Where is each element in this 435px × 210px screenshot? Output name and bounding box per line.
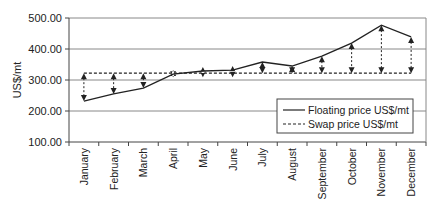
x-tick-label: July xyxy=(256,147,268,166)
gridlines xyxy=(69,18,426,111)
y-axis-ticks: 100.00200.00300.00400.00500.00 xyxy=(28,12,69,148)
x-tick-label: February xyxy=(108,147,120,190)
legend-item-floating: Floating price US$/mt xyxy=(308,104,409,116)
y-tick-label: 500.00 xyxy=(28,12,62,24)
x-tick-label: August xyxy=(286,148,298,181)
line-chart: 100.00200.00300.00400.00500.00 US$/mt Ja… xyxy=(0,0,435,210)
y-tick-label: 100.00 xyxy=(28,136,62,148)
floating-price-line xyxy=(84,25,411,101)
x-tick-label: March xyxy=(137,148,149,177)
x-tick-label: November xyxy=(375,147,387,196)
legend: Floating price US$/mt Swap price US$/mt xyxy=(277,99,413,133)
series-lines xyxy=(84,25,411,101)
x-tick-label: January xyxy=(78,147,90,185)
x-tick-label: April xyxy=(167,148,179,169)
x-tick-label: September xyxy=(316,148,328,200)
y-tick-label: 200.00 xyxy=(28,105,62,117)
y-axis-label: US$/mt xyxy=(11,62,23,99)
y-tick-label: 300.00 xyxy=(28,74,62,86)
x-tick-label: May xyxy=(197,147,209,168)
x-axis-ticks: JanuaryFebruaryMarchAprilMayJuneJulyAugu… xyxy=(69,142,426,199)
x-tick-label: October xyxy=(346,148,358,186)
x-tick-label: June xyxy=(227,148,239,171)
difference-arrows xyxy=(81,25,414,101)
x-tick-label: December xyxy=(405,147,417,196)
legend-item-swap: Swap price US$/mt xyxy=(308,118,398,130)
y-tick-label: 400.00 xyxy=(28,43,62,55)
